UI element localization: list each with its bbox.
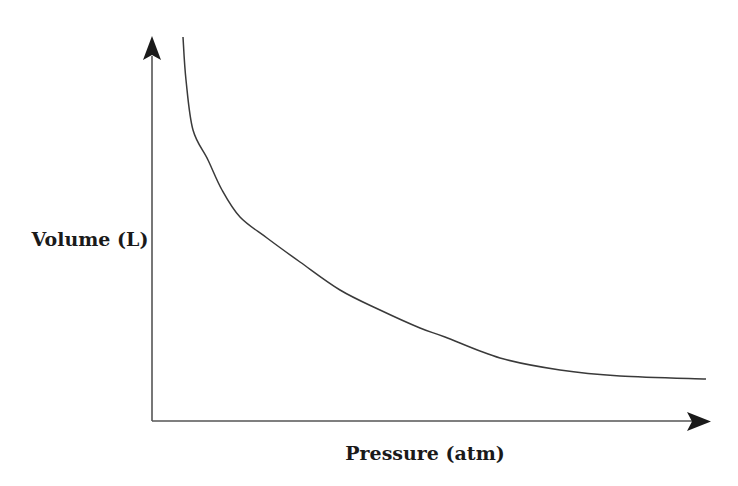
inverse-curve xyxy=(183,37,706,379)
diagram-canvas: Volume (L) Pressure (atm) xyxy=(0,0,738,486)
y-axis-label: Volume (L) xyxy=(31,228,149,250)
diagram-svg: Volume (L) Pressure (atm) xyxy=(0,0,738,486)
x-axis-label: Pressure (atm) xyxy=(345,442,504,464)
